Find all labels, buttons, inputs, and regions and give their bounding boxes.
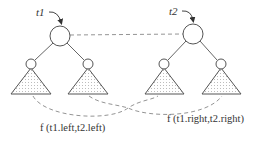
subtree-t1-left bbox=[11, 68, 51, 94]
subtree-t2-right bbox=[202, 68, 241, 94]
child-node-t2-right bbox=[216, 59, 226, 69]
child-node-t1-left bbox=[26, 59, 36, 69]
edge-t1-right bbox=[67, 43, 84, 60]
pointer-arrow-t1 bbox=[49, 12, 61, 22]
tree-diagram: t1 t2 f (t1.left,t2.left) f (t1.right,t2… bbox=[0, 0, 255, 145]
label-t1: t1 bbox=[36, 6, 45, 18]
call-curve-right-right bbox=[89, 96, 222, 114]
child-node-t1-right bbox=[83, 59, 93, 69]
edge-t2-right bbox=[200, 41, 217, 60]
root-node-t1 bbox=[50, 26, 70, 46]
call-label-left: f (t1.left,t2.left) bbox=[40, 122, 106, 134]
root-node-t2 bbox=[183, 24, 203, 44]
call-label-right: f (t1.right,t2.right) bbox=[167, 113, 244, 125]
edge-t2-left bbox=[168, 41, 186, 60]
tree-t1: t1 bbox=[11, 6, 108, 94]
subtree-t1-right bbox=[68, 68, 108, 94]
root-connector-dashed bbox=[70, 34, 183, 35]
pointer-arrow-t2 bbox=[182, 11, 193, 20]
label-t2: t2 bbox=[169, 5, 178, 17]
child-node-t2-left bbox=[159, 59, 169, 69]
edge-t1-left bbox=[35, 43, 53, 60]
subtree-t2-left bbox=[145, 68, 184, 94]
tree-t2: t2 bbox=[145, 5, 241, 94]
call-curve-left-left bbox=[33, 96, 158, 116]
